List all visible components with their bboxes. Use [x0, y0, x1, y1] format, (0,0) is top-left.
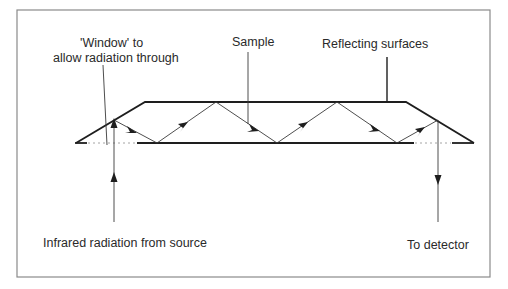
beam-arrowheads — [111, 118, 442, 185]
arrow-down-detector-icon — [435, 175, 442, 185]
window-pointer — [103, 65, 107, 145]
arrow-reflect-4-icon — [298, 122, 308, 132]
reflecting-surfaces-label: Reflecting surfaces — [322, 37, 428, 51]
ir-beam-path — [114, 102, 438, 222]
beam-input — [114, 102, 438, 222]
atr-diagram: 'Window' to allow radiation through Samp… — [0, 0, 508, 289]
window-label-line2: allow radiation through — [53, 51, 179, 65]
crystal — [75, 102, 474, 143]
arrow-up-source-icon — [111, 172, 118, 182]
arrow-reflect-5-icon — [368, 124, 380, 132]
crystal-top-and-ends — [76, 102, 474, 143]
detector-label: To detector — [407, 238, 469, 252]
source-label: Infrared radiation from source — [43, 236, 207, 250]
window-label-line1: 'Window' to — [80, 36, 143, 50]
arrow-reflect-3-icon — [247, 124, 259, 132]
sample-label: Sample — [232, 35, 274, 49]
